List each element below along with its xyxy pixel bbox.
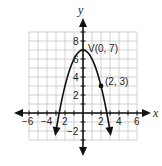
x-axis-label: x bbox=[152, 106, 159, 120]
y-tick-label: 2 bbox=[73, 90, 79, 101]
y-tick-label: 6 bbox=[73, 54, 79, 65]
y-tick-label: 4 bbox=[73, 72, 79, 83]
coordinate-plane: y x V(0, 7) (2, 3) −6 −4 2 2 4 6 8 6 4 2… bbox=[0, 0, 162, 166]
x-tick-label: 2 bbox=[98, 116, 104, 127]
y-axis-label: y bbox=[77, 3, 84, 17]
vertex-label: V(0, 7) bbox=[88, 43, 118, 54]
point-marker bbox=[99, 84, 104, 89]
y-axis-up-arrow-icon bbox=[79, 18, 87, 27]
point-label: (2, 3) bbox=[105, 76, 128, 87]
y-axis-down-arrow-icon bbox=[79, 147, 87, 156]
y-axis bbox=[79, 18, 87, 156]
y-tick-label: 8 bbox=[73, 36, 79, 47]
y-tick-label: −2 bbox=[67, 126, 79, 137]
x-tick-label: −4 bbox=[41, 116, 53, 127]
x-tick-label: −6 bbox=[22, 116, 34, 127]
x-axis-right-arrow-icon bbox=[142, 109, 151, 117]
x-tick-label: 6 bbox=[134, 116, 140, 127]
x-tick-label: 4 bbox=[116, 116, 122, 127]
